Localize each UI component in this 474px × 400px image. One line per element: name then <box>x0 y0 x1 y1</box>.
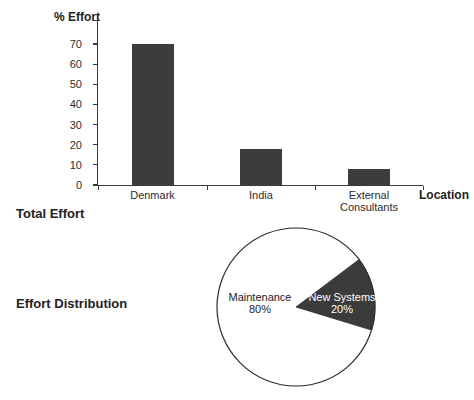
y-tick <box>93 104 98 105</box>
x-tick <box>315 186 316 190</box>
bar-section-title: Total Effort <box>16 206 84 221</box>
y-tick <box>93 64 98 65</box>
y-axis-end-tick <box>93 20 98 21</box>
category-label: India <box>223 190 299 202</box>
y-tick-label: 70 <box>48 38 82 50</box>
y-tick-label: 50 <box>48 78 82 90</box>
y-tick <box>93 144 98 145</box>
y-tick-label: 30 <box>48 119 82 131</box>
pie-label-new-systems: New Systems 20% <box>299 291 385 315</box>
y-tick <box>93 84 98 85</box>
pie-section-title: Effort Distribution <box>16 296 127 311</box>
bar-denmark <box>132 44 174 185</box>
y-tick <box>93 43 98 44</box>
pie-label-maintenance-name: Maintenance <box>213 291 307 303</box>
y-tick-label: 60 <box>48 58 82 70</box>
y-axis-title: % Effort <box>54 10 100 24</box>
x-tick <box>207 186 208 190</box>
y-axis-line <box>97 20 98 185</box>
x-tick <box>98 186 99 190</box>
y-tick-label: 40 <box>48 98 82 110</box>
y-tick-label: 20 <box>48 139 82 151</box>
pie-label-maintenance: Maintenance 80% <box>213 291 307 315</box>
y-tick-label: 10 <box>48 159 82 171</box>
bar-india <box>240 149 282 185</box>
category-label: Denmark <box>115 190 191 202</box>
y-tick <box>93 124 98 125</box>
figure-canvas: % Effort Location 010203040506070Denmark… <box>0 0 474 400</box>
x-axis-title: Location <box>419 188 469 202</box>
pie-label-new-systems-pct: 20% <box>299 303 385 315</box>
y-tick <box>93 164 98 165</box>
pie-label-maintenance-pct: 80% <box>213 303 307 315</box>
y-tick-label: 0 <box>48 179 82 191</box>
category-label: External Consultants <box>331 190 407 213</box>
pie-label-new-systems-name: New Systems <box>299 291 385 303</box>
x-tick <box>423 186 424 190</box>
y-tick <box>93 184 98 185</box>
bar-external-consultants <box>348 169 390 185</box>
